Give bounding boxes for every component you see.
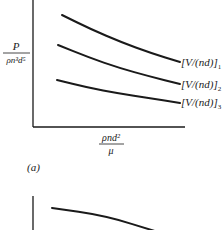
figure: [V/(nd)]1 [V/(nd)]2 [V/(nd)]3 P ρn³d⁵ ρn… — [0, 0, 223, 230]
x-label-numerator: ρnd² — [101, 132, 121, 143]
x-label-denominator: μ — [107, 145, 113, 156]
series-subscript-2: 2 — [218, 85, 222, 93]
panel-label-a: (a) — [27, 161, 40, 174]
curves-panel-a — [57, 15, 180, 103]
series-line-2 — [58, 45, 180, 84]
series-label-1: [V/(nd)]1 — [181, 56, 222, 71]
series-line-3 — [57, 80, 180, 103]
series-subscript-3: 3 — [218, 103, 222, 111]
panel-b-series-line — [52, 208, 158, 230]
series-label-3: [V/(nd)]3 — [181, 96, 222, 111]
curves-panel-b — [52, 208, 158, 230]
y-label-denominator: ρn³d⁵ — [5, 55, 25, 65]
series-line-1 — [62, 15, 180, 62]
series-subscript-1: 1 — [218, 63, 222, 71]
y-label-numerator: P — [12, 40, 20, 52]
series-label-2: [V/(nd)]2 — [181, 78, 222, 93]
